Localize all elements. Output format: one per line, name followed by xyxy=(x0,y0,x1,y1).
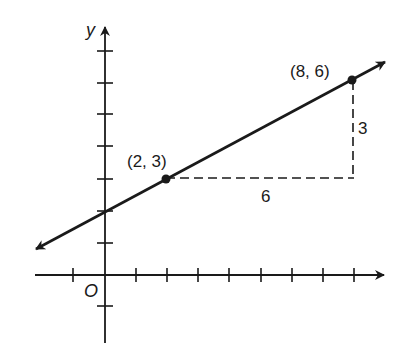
origin-label: O xyxy=(84,281,98,301)
run-label: 6 xyxy=(261,187,270,206)
rise-label: 3 xyxy=(358,119,367,138)
point-2-3 xyxy=(162,175,171,184)
y-axis-label: y xyxy=(84,20,96,40)
point-2-3-label: (2, 3) xyxy=(127,152,167,171)
point-8-6-label: (8, 6) xyxy=(290,62,330,81)
coordinate-plane: y O (2, 3) (8, 6) 6 3 xyxy=(0,0,406,361)
point-8-6 xyxy=(348,76,357,85)
graph-line xyxy=(36,62,385,249)
